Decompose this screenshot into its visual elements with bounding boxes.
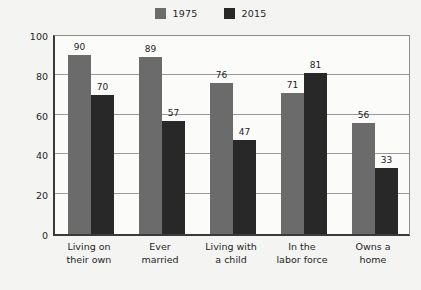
y-tick-0: 0 xyxy=(42,230,48,241)
y-tick-40: 40 xyxy=(36,150,48,161)
legend-item-1975[interactable]: 1975 xyxy=(155,8,198,19)
x-tick-label: Owns ahome xyxy=(333,240,413,266)
x-tick-line-1: Ever xyxy=(120,240,200,253)
x-tick-label: Living witha child xyxy=(191,240,271,266)
bar-group: 5633 xyxy=(352,36,398,234)
bar-value-label: 56 xyxy=(358,110,369,120)
bar-1975[interactable]: 56 xyxy=(352,123,375,234)
y-tick-100: 100 xyxy=(30,31,48,42)
y-axis-tick-labels: 100806040200 xyxy=(22,35,48,236)
bars-layer: 90708957764771815633 xyxy=(55,36,409,234)
chart-legend: 1975 2015 xyxy=(0,8,421,19)
legend-label-2015: 2015 xyxy=(242,9,267,19)
x-tick-label: In thelabor force xyxy=(262,240,342,266)
bar-group: 7647 xyxy=(210,36,256,234)
bar-2015[interactable]: 70 xyxy=(91,95,114,234)
y-tick-80: 80 xyxy=(36,70,48,81)
bar-1975[interactable]: 89 xyxy=(139,57,162,234)
legend-item-2015[interactable]: 2015 xyxy=(224,8,267,19)
bar-value-label: 57 xyxy=(168,108,179,118)
bar-group: 7181 xyxy=(281,36,327,234)
y-tick-60: 60 xyxy=(36,110,48,121)
bar-value-label: 76 xyxy=(216,70,227,80)
bar-value-label: 81 xyxy=(310,60,321,70)
bar-value-label: 90 xyxy=(74,42,85,52)
y-tick-20: 20 xyxy=(36,190,48,201)
x-tick-line-1: Living on xyxy=(49,240,129,253)
x-tick-line-2: labor force xyxy=(262,253,342,266)
legend-swatch-1975 xyxy=(155,8,166,19)
bar-2015[interactable]: 47 xyxy=(233,140,256,234)
x-tick-line-2: their own xyxy=(49,253,129,266)
bar-1975[interactable]: 90 xyxy=(68,55,91,234)
plot-area: 90708957764771815633 xyxy=(53,35,410,236)
x-tick-line-2: home xyxy=(333,253,413,266)
x-tick-label: Living ontheir own xyxy=(49,240,129,266)
bar-value-label: 33 xyxy=(381,155,392,165)
bar-value-label: 70 xyxy=(97,82,108,92)
bar-group: 8957 xyxy=(139,36,185,234)
bar-2015[interactable]: 81 xyxy=(304,73,327,234)
x-axis-tick-labels: Living ontheir ownEvermarriedLiving with… xyxy=(53,240,410,286)
bar-group: 9070 xyxy=(68,36,114,234)
bar-value-label: 71 xyxy=(287,80,298,90)
bar-2015[interactable]: 33 xyxy=(375,168,398,234)
x-tick-line-1: In the xyxy=(262,240,342,253)
bar-value-label: 89 xyxy=(145,44,156,54)
bar-1975[interactable]: 76 xyxy=(210,83,233,234)
x-tick-line-1: Owns a xyxy=(333,240,413,253)
x-tick-line-1: Living with xyxy=(191,240,271,253)
x-tick-line-2: a child xyxy=(191,253,271,266)
x-tick-line-2: married xyxy=(120,253,200,266)
bar-chart: 1975 2015 PERCENTAGE 100806040200 907089… xyxy=(0,0,421,290)
x-tick-label: Evermarried xyxy=(120,240,200,266)
legend-label-1975: 1975 xyxy=(173,9,198,19)
legend-swatch-2015 xyxy=(224,8,235,19)
bar-value-label: 47 xyxy=(239,127,250,137)
bar-2015[interactable]: 57 xyxy=(162,121,185,234)
bar-1975[interactable]: 71 xyxy=(281,93,304,234)
